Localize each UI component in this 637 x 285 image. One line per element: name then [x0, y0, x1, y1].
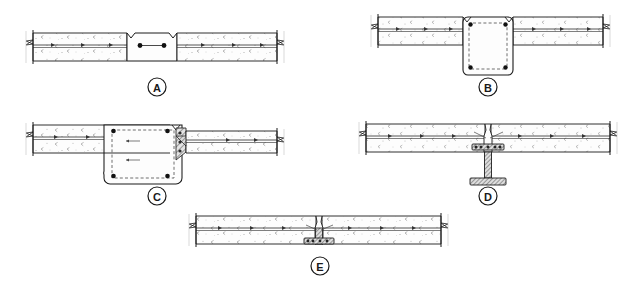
- detail-a-slab-left: [26, 30, 127, 64]
- detail-b-label: B: [479, 78, 497, 96]
- detail-e-slab-left: [189, 213, 316, 247]
- detail-label-text: D: [484, 191, 492, 203]
- rebar-dot: [111, 174, 116, 179]
- detail-label-text: C: [153, 191, 161, 203]
- detail-d-slab-left: [359, 121, 485, 155]
- detail-a-label: A: [148, 78, 166, 96]
- detail-label-text: A: [153, 82, 161, 94]
- detail-e-label: E: [311, 257, 329, 275]
- rebar-dot: [162, 43, 167, 48]
- rebar-dot: [503, 22, 507, 26]
- drawing-sheet: A: [0, 0, 637, 285]
- rebar-dot: [503, 65, 507, 69]
- detail-d-slab-right: [491, 121, 617, 155]
- detail-c-column: [104, 125, 182, 184]
- rebar-dot: [468, 22, 472, 26]
- detail-c-slab-right: [186, 128, 284, 156]
- steel-web: [485, 152, 492, 178]
- detail-label-text: E: [316, 261, 323, 273]
- rebar-dot: [111, 129, 116, 134]
- rebar-dot: [165, 129, 170, 134]
- base-plate: [470, 178, 506, 185]
- detail-d-label: D: [479, 187, 497, 205]
- rebar-dot: [138, 43, 143, 48]
- detail-label-text: B: [484, 82, 492, 94]
- detail-a-slab-right: [177, 30, 284, 64]
- detail-b-slab-left: [371, 14, 463, 48]
- detail-b-slab-right: [513, 14, 610, 48]
- detail-c-label: C: [148, 187, 166, 205]
- detail-a-center-band: [127, 33, 177, 61]
- detail-b-column: [463, 17, 513, 75]
- rebar-dot: [165, 174, 170, 179]
- detail-e-slab-right: [322, 213, 448, 247]
- rebar-dot: [468, 65, 472, 69]
